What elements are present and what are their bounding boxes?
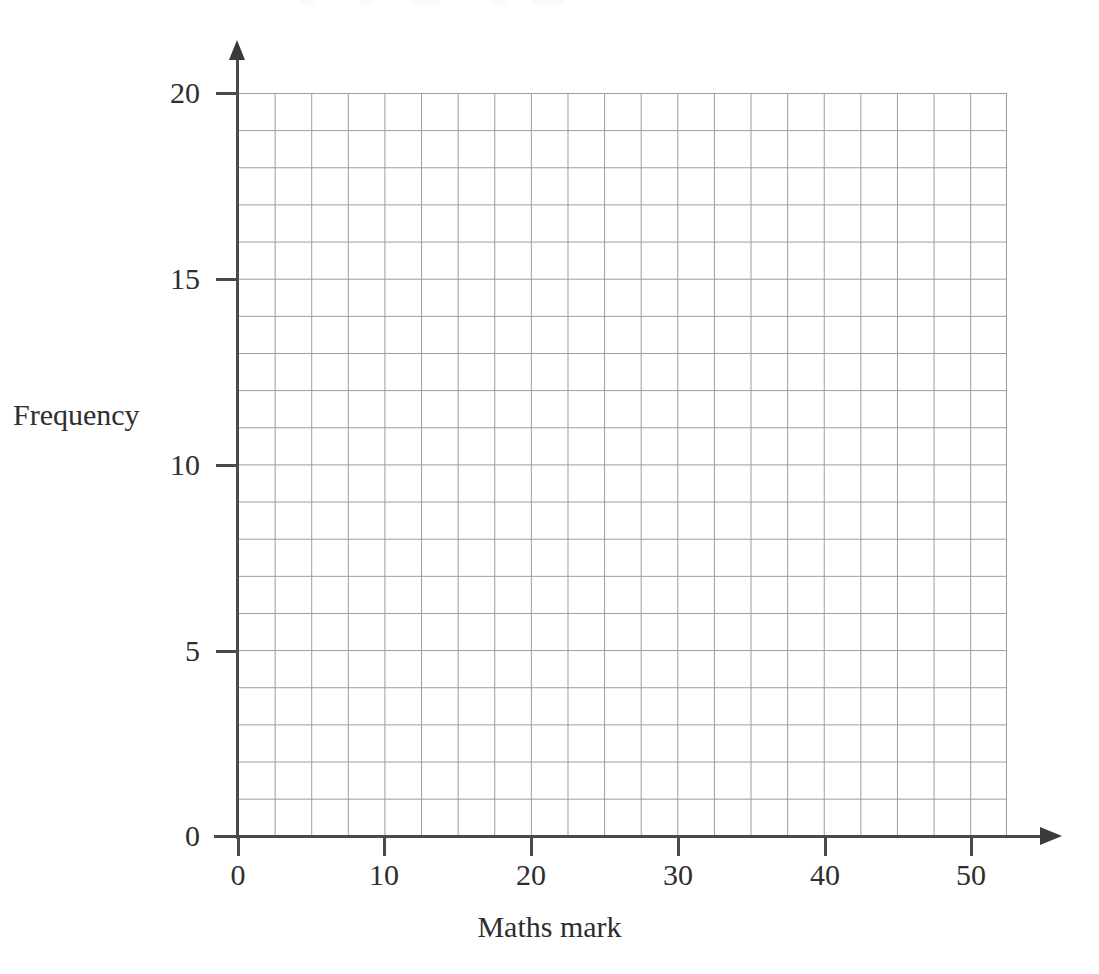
x-tick-20 [530, 836, 533, 856]
x-tick-0 [237, 836, 240, 856]
y-tick-label-20: 20 [140, 78, 200, 108]
y-tick-0 [216, 835, 239, 838]
x-tick-50 [970, 836, 973, 856]
y-tick-label-5: 5 [140, 636, 200, 666]
y-tick-5 [216, 650, 239, 653]
x-tick-label-30: 30 [643, 858, 713, 892]
y-tick-label-0: 0 [140, 821, 200, 851]
y-axis-line [236, 55, 239, 839]
x-tick-10 [383, 836, 386, 856]
x-tick-label-40: 40 [790, 858, 860, 892]
x-tick-40 [824, 836, 827, 856]
x-tick-label-20: 20 [496, 858, 566, 892]
grid-right-edge [1006, 93, 1007, 837]
graph-grid [238, 93, 1007, 836]
chart-canvas: 20 15 10 5 0 0 10 20 30 40 50 Frequency … [0, 0, 1099, 974]
y-tick-label-10: 10 [140, 450, 200, 480]
x-axis-title: Maths mark [0, 910, 1099, 944]
scan-artifact [300, 0, 720, 4]
y-axis-title: Frequency [13, 398, 140, 432]
y-tick-label-15: 15 [140, 264, 200, 294]
x-axis-line [214, 835, 1044, 838]
y-axis-arrow-icon [229, 40, 245, 60]
x-tick-label-10: 10 [349, 858, 419, 892]
x-tick-label-50: 50 [936, 858, 1006, 892]
y-tick-15 [216, 278, 239, 281]
y-tick-10 [216, 464, 239, 467]
x-tick-label-0: 0 [203, 858, 273, 892]
y-tick-20 [216, 92, 239, 95]
x-tick-30 [677, 836, 680, 856]
x-axis-arrow-icon [1040, 827, 1062, 845]
